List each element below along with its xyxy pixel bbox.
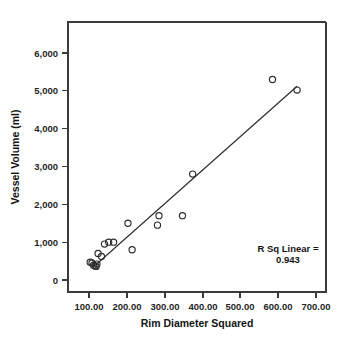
data-point [154,222,160,228]
data-point [190,171,196,177]
y-tick-label-3000: 3,000 [34,161,58,172]
r-squared-label: R Sq Linear = [258,243,319,254]
x-tick-label-400: 400.00 [188,301,217,312]
x-axis: 100.00 200.00 300.00 400.00 500.00 600.0… [74,292,330,312]
data-point [156,213,162,219]
data-point [179,213,185,219]
x-tick-label-600: 600.00 [263,301,292,312]
x-tick-label-500: 500.00 [225,301,254,312]
x-tick-label-200: 200.00 [112,301,141,312]
y-tick-label-4000: 4,000 [34,123,58,134]
data-point [129,247,135,253]
y-axis-title: Vessel Volume (ml) [9,110,21,205]
chart-canvas: 0 1,000 2,000 3,000 4,000 5,000 6,000 10… [0,0,350,343]
x-tick-label-300: 300.00 [150,301,179,312]
scatter-markers [87,76,300,269]
data-point [294,87,300,93]
r-squared-annotation: R Sq Linear = 0.943 [258,243,319,265]
y-axis: 0 1,000 2,000 3,000 4,000 5,000 6,000 [34,48,68,286]
y-tick-label-2000: 2,000 [34,199,58,210]
x-tick-label-700: 700.00 [301,301,330,312]
y-tick-label-0: 0 [53,275,58,286]
y-tick-label-1000: 1,000 [34,237,58,248]
r-squared-value: 0.943 [276,254,300,265]
x-tick-label-100: 100.00 [74,301,103,312]
y-tick-label-5000: 5,000 [34,85,58,96]
data-point [269,76,275,82]
scatter-plot-chart: 0 1,000 2,000 3,000 4,000 5,000 6,000 10… [0,0,350,343]
x-axis-title: Rim Diameter Squared [141,317,254,329]
y-tick-label-6000: 6,000 [34,48,58,59]
data-point [125,220,131,226]
